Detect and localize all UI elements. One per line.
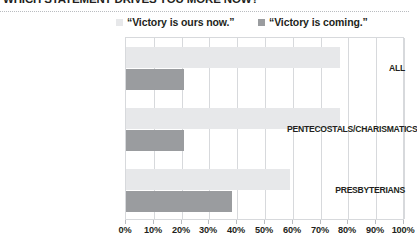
bar xyxy=(126,191,232,212)
axis-tick xyxy=(403,220,404,224)
title-divider xyxy=(0,11,409,12)
category-label-2: PENTECOSTALS/CHARISMATICS xyxy=(287,124,409,134)
axis-tick-label: 70% xyxy=(311,225,329,235)
axis-tick xyxy=(320,220,321,224)
category-label-3: PRESBYTERIANS xyxy=(287,185,409,195)
legend-swatch-icon xyxy=(258,19,265,26)
axis-tick-label: 100% xyxy=(392,225,415,235)
axis-tick xyxy=(208,220,209,224)
legend-label: “Victory is ours now.” xyxy=(127,17,235,28)
axis-tick-label: 0% xyxy=(119,225,132,235)
axis-tick xyxy=(375,220,376,224)
axis-tick-label: 40% xyxy=(227,225,245,235)
bar xyxy=(126,130,184,151)
axis-tick xyxy=(181,220,182,224)
axis-tick-label: 80% xyxy=(338,225,356,235)
axis-tick-label: 10% xyxy=(144,225,162,235)
bar xyxy=(126,69,184,90)
x-axis: 0%10%20%30%40%50%60%70%80%90%100% xyxy=(125,220,404,239)
bar xyxy=(126,169,290,190)
legend-item: “Victory is ours now.” xyxy=(116,17,235,28)
legend-item: “Victory is coming.” xyxy=(258,17,368,28)
axis-tick xyxy=(236,220,237,224)
axis-tick-label: 20% xyxy=(172,225,190,235)
axis-tick xyxy=(347,220,348,224)
axis-tick xyxy=(264,220,265,224)
legend-swatch-icon xyxy=(116,19,123,26)
axis-tick-label: 60% xyxy=(283,225,301,235)
axis-tick-label: 30% xyxy=(199,225,217,235)
axis-tick xyxy=(125,220,126,224)
legend-label: “Victory is coming.” xyxy=(269,17,368,28)
category-label-1: ALL xyxy=(287,63,409,73)
axis-tick xyxy=(292,220,293,224)
axis-tick-label: 50% xyxy=(255,225,273,235)
axis-tick-label: 90% xyxy=(366,225,384,235)
chart-legend: “Victory is ours now.”“Victory is coming… xyxy=(0,17,409,32)
page-title: WHICH STATEMENT DRIVES YOU MORE NOW? xyxy=(3,0,403,5)
axis-tick xyxy=(153,220,154,224)
